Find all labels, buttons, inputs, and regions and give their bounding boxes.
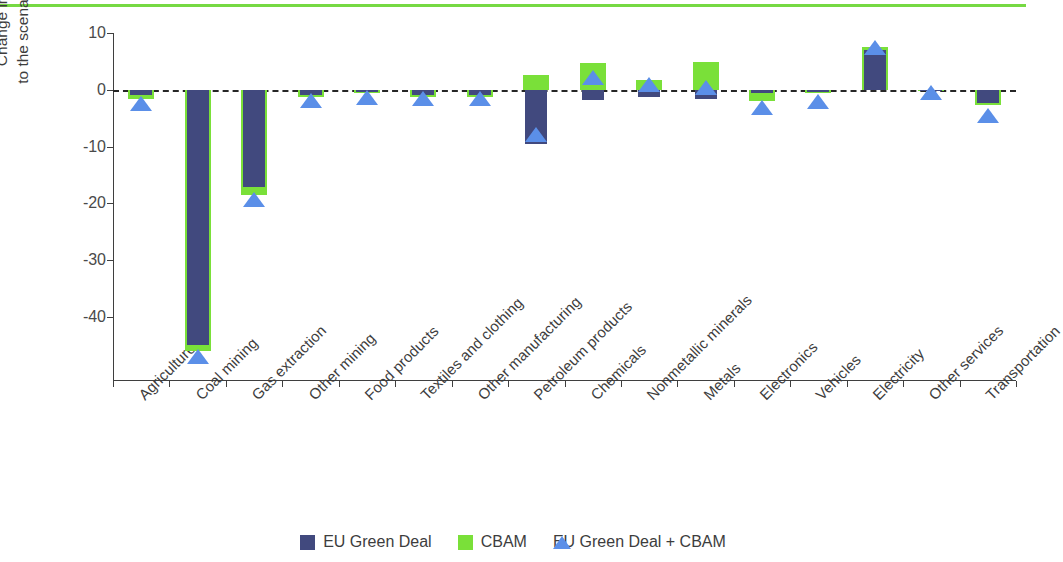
x-axis-label: Vehicles (812, 351, 864, 403)
bar-eu-green-deal[interactable] (130, 90, 152, 96)
legend-square-icon (458, 535, 473, 550)
bar-eu-green-deal[interactable] (751, 90, 773, 93)
bar-eu-green-deal[interactable] (243, 90, 265, 187)
marker-eu-green-deal-plus-cbam[interactable] (864, 40, 886, 55)
bar-eu-green-deal[interactable] (582, 90, 604, 100)
marker-eu-green-deal-plus-cbam[interactable] (356, 90, 378, 105)
marker-eu-green-deal-plus-cbam[interactable] (243, 192, 265, 207)
legend-square-icon (300, 535, 315, 550)
legend-label: CBAM (481, 533, 527, 551)
x-axis-label: Nonmetallic minerals (643, 291, 755, 403)
legend-item[interactable]: EU Green Deal + CBAM (553, 533, 726, 551)
marker-eu-green-deal-plus-cbam[interactable] (469, 91, 491, 106)
bar-eu-green-deal[interactable] (187, 90, 209, 345)
marker-eu-green-deal-plus-cbam[interactable] (807, 94, 829, 109)
bar-eu-green-deal[interactable] (807, 90, 829, 92)
legend-label: EU Green Deal + CBAM (553, 533, 726, 551)
chart-legend: EU Green DealCBAMEU Green Deal + CBAM (0, 533, 1026, 551)
marker-eu-green-deal-plus-cbam[interactable] (638, 77, 660, 92)
marker-eu-green-deal-plus-cbam[interactable] (300, 93, 322, 108)
bar-eu-green-deal[interactable] (977, 90, 999, 103)
x-axis-label: Metals (700, 359, 744, 403)
x-axis-label: Other manufacturing (474, 293, 584, 403)
marker-eu-green-deal-plus-cbam[interactable] (751, 100, 773, 115)
bar-cbam[interactable] (523, 75, 549, 90)
marker-eu-green-deal-plus-cbam[interactable] (582, 70, 604, 85)
marker-eu-green-deal-plus-cbam[interactable] (187, 349, 209, 364)
x-axis-label: Chemicals (587, 341, 649, 403)
legend-item[interactable]: EU Green Deal (300, 533, 432, 551)
marker-eu-green-deal-plus-cbam[interactable] (920, 85, 942, 100)
x-axis-label: Textiles and clothing (417, 294, 526, 403)
legend-item[interactable]: CBAM (458, 533, 527, 551)
bar-eu-green-deal[interactable] (864, 50, 886, 90)
marker-eu-green-deal-plus-cbam[interactable] (412, 91, 434, 106)
x-axis-label: Petroleum products (530, 298, 635, 403)
marker-eu-green-deal-plus-cbam[interactable] (695, 80, 717, 95)
legend-label: EU Green Deal (323, 533, 432, 551)
x-axis-label: Electronics (756, 338, 821, 403)
marker-eu-green-deal-plus-cbam[interactable] (130, 96, 152, 111)
x-axis-label: Electricity (869, 345, 927, 403)
marker-eu-green-deal-plus-cbam[interactable] (525, 127, 547, 142)
marker-eu-green-deal-plus-cbam[interactable] (977, 108, 999, 123)
legend-triangle-icon (553, 536, 571, 549)
